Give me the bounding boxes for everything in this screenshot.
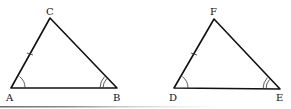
- vertex-label-c: C: [46, 6, 54, 17]
- triangle-abc: C A B: [5, 6, 120, 103]
- vertex-label-f: F: [210, 6, 217, 17]
- triangle-def: F D E: [169, 6, 283, 103]
- angle-arc-e-inner: [266, 80, 270, 89]
- angle-arc-d: [182, 77, 188, 89]
- angle-arc-a: [20, 77, 26, 89]
- vertex-label-b: B: [113, 92, 120, 103]
- vertex-label-a: A: [5, 92, 14, 103]
- diagram-canvas: C A B F D E: [0, 0, 291, 109]
- angle-arc-b-inner: [103, 79, 107, 88]
- vertex-label-d: D: [169, 92, 177, 103]
- vertex-label-e: E: [276, 92, 283, 103]
- bottom-divider: [0, 106, 220, 108]
- triangle-def-outline: [174, 19, 280, 89]
- triangle-abc-outline: [11, 18, 117, 88]
